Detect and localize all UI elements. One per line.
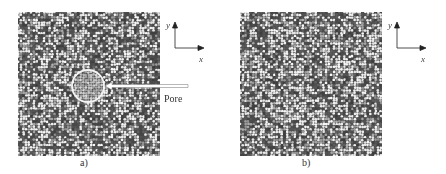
annotation-overlay	[0, 0, 446, 174]
axis-label-x-a: x	[199, 54, 203, 64]
pore-arrow-icon	[105, 82, 188, 90]
axis-label-x-b: x	[421, 54, 425, 64]
axis-label-y-a: y	[166, 20, 170, 30]
axes-icon-b	[395, 22, 427, 51]
axis-label-y-b: y	[388, 20, 392, 30]
axes-icon-a	[173, 22, 205, 51]
pore-label: Pore	[164, 93, 182, 104]
pore-ring	[72, 70, 104, 102]
